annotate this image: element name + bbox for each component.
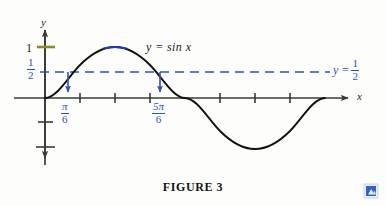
fraction-line-value: 1 2	[351, 58, 359, 82]
x-tick-label-five-pi-over-six: 5π 6	[152, 101, 165, 125]
fraction-numerator: 5π	[152, 101, 165, 112]
fraction-numerator: 1	[27, 57, 35, 68]
x-axis-label: x	[357, 91, 362, 102]
y-tick-label-one: 1	[26, 42, 32, 54]
fraction-numerator: π	[61, 101, 69, 112]
fraction-numerator: 1	[351, 58, 359, 69]
x-tick-label-pi-over-six: π 6	[61, 101, 69, 125]
y-tick-label-half: 1 2	[27, 57, 35, 81]
sine-plot-svg	[0, 0, 386, 206]
y-axis-label: y	[41, 17, 46, 28]
fraction-denominator: 2	[351, 71, 359, 82]
figure-caption: FIGURE 3	[0, 180, 386, 195]
line-equation-label: y = 1 2	[333, 58, 359, 82]
sine-curve-crest-highlight	[103, 47, 127, 49]
fraction-denominator: 6	[152, 114, 165, 125]
line-equation-lhs: y =	[333, 64, 349, 76]
fraction-five-pi-over-six: 5π 6	[152, 101, 165, 125]
figure-container: y x 1 1 2 π 6 5π 6 y = sin x y = 1	[0, 0, 386, 206]
fraction-denominator: 6	[61, 114, 69, 125]
curve-equation-label: y = sin x	[146, 41, 191, 53]
fraction-half: 1 2	[27, 57, 35, 81]
fraction-denominator: 2	[27, 70, 35, 81]
fraction-pi-over-six: π 6	[61, 101, 69, 125]
